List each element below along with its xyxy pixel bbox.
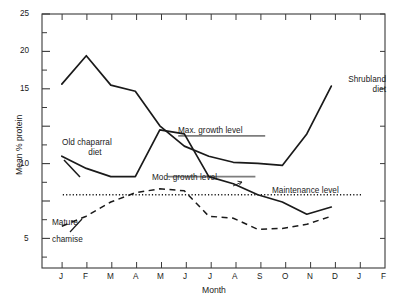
x-axis-top-ticks	[62, 14, 360, 20]
x-tick-label-7: J	[208, 272, 212, 281]
mature-chamise-label-line1: Mature	[52, 218, 78, 228]
x-tick-label-8: A	[232, 272, 237, 281]
x-tick-label-6: J	[183, 272, 187, 281]
x-axis-ticks	[62, 262, 360, 268]
x-axis-title: Month	[202, 285, 226, 295]
y-tick-label-10: 10	[20, 159, 29, 168]
max-growth-level-label: Max. growth level	[178, 126, 243, 136]
chart-plot-area	[0, 0, 399, 307]
maintenance-level-label: Maintenance level	[272, 186, 339, 196]
x-tick-label-3: M	[107, 272, 114, 281]
y-axis-major-ticks	[42, 14, 50, 238]
y-axis-minor-ticks	[42, 33, 47, 257]
protein-chart-figure: Mean % protein 5 10 15 20 25 J F M A M J…	[0, 0, 399, 307]
x-tick-label-2: F	[83, 272, 88, 281]
x-tick-label-9: S	[257, 272, 262, 281]
x-tick-label-4: A	[133, 272, 138, 281]
mod-growth-level-label: Mod. growth level	[152, 173, 217, 183]
x-tick-label-10: O	[282, 272, 288, 281]
old-chaparral-diet-label-line1: Old chaparral	[62, 138, 112, 148]
mature-chamise-label-line2: chamise	[52, 235, 83, 245]
y-tick-label-20: 20	[20, 46, 29, 55]
y-tick-label-15: 15	[20, 84, 29, 93]
shrubland-diet-label-line1: Shrubland	[326, 75, 386, 85]
x-tick-label-5: M	[157, 272, 164, 281]
x-tick-label-13: J	[357, 272, 361, 281]
y-tick-label-25: 25	[20, 9, 29, 18]
y-tick-label-5: 5	[24, 234, 29, 243]
x-tick-label-12: D	[332, 272, 338, 281]
leader-line-old-chaparral	[64, 160, 80, 177]
x-tick-label-1: J	[59, 272, 63, 281]
y-axis-right-ticks	[380, 14, 385, 238]
old-chaparral-diet-label-line2: diet	[62, 148, 128, 158]
shrubland-diet-label-line2: diet	[326, 85, 386, 95]
x-tick-label-14: F	[381, 272, 386, 281]
x-tick-label-11: N	[307, 272, 313, 281]
